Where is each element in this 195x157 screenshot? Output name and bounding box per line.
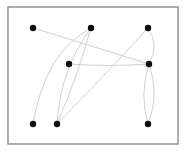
graph-edge	[57, 28, 91, 124]
graph-edge	[148, 64, 154, 124]
graph-node	[88, 25, 94, 31]
graph-edge	[148, 28, 154, 64]
graph-node	[145, 121, 151, 127]
graph-node	[30, 25, 36, 31]
graph-edge	[144, 64, 149, 124]
graph-edge	[69, 64, 149, 66]
graph-node	[145, 25, 151, 31]
edges-layer	[33, 28, 154, 124]
nodes-layer	[30, 25, 152, 127]
graph-edge	[33, 28, 91, 124]
graph-edge	[57, 28, 91, 124]
graph-node	[54, 121, 60, 127]
graph-figure	[0, 0, 195, 157]
graph-node	[146, 61, 152, 67]
graph-node	[66, 61, 72, 67]
graph-node	[30, 121, 36, 127]
graph-canvas	[0, 0, 195, 157]
